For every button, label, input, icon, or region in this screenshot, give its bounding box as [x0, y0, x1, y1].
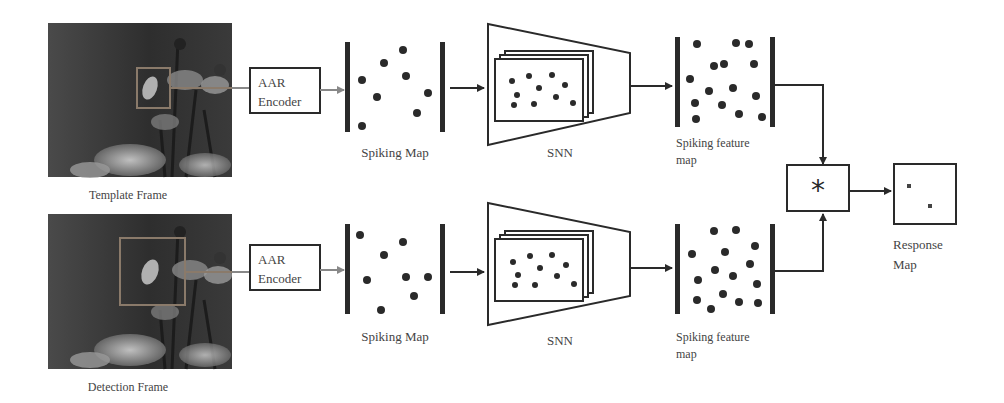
detection-snn-block [488, 203, 630, 325]
detection-feature-map-label-1: Spiking feature [676, 330, 750, 344]
template-feature-map-label-2: map [676, 153, 697, 167]
svg-text:AAR: AAR [258, 252, 286, 267]
pipeline-diagram: Template Frame AAR Encoder Spiking Map [0, 0, 1004, 403]
template-frame-image [48, 23, 232, 178]
detection-spiking-map-label: Spiking Map [361, 329, 429, 344]
template-frame-label: Template Frame [89, 188, 167, 202]
detection-spiking-map [345, 224, 445, 314]
detection-frame-label: Detection Frame [88, 380, 168, 394]
detection-frame-image [48, 214, 232, 369]
convolution-symbol: * [811, 174, 825, 207]
cross-correlation-block: * [787, 165, 849, 211]
template-spiking-feature-map [675, 37, 775, 127]
template-spiking-map-label: Spiking Map [361, 145, 429, 160]
template-aar-encoder: AAR Encoder [250, 68, 320, 113]
detection-aar-encoder: AAR Encoder [250, 245, 320, 290]
detection-feature-map-label-2: map [676, 347, 697, 361]
svg-text:AAR: AAR [258, 75, 286, 90]
svg-text:Encoder: Encoder [258, 271, 302, 286]
template-spiking-map [345, 42, 445, 132]
template-snn-label: SNN [547, 145, 574, 160]
response-map-label-1: Response [893, 237, 943, 252]
detection-snn-label: SNN [547, 333, 574, 348]
response-map-label-2: Map [893, 257, 917, 272]
detection-spiking-feature-map [675, 224, 775, 314]
response-map [894, 164, 956, 224]
template-feature-map-label-1: Spiking feature [676, 136, 750, 150]
template-snn-block [488, 24, 630, 145]
svg-text:Encoder: Encoder [258, 94, 302, 109]
